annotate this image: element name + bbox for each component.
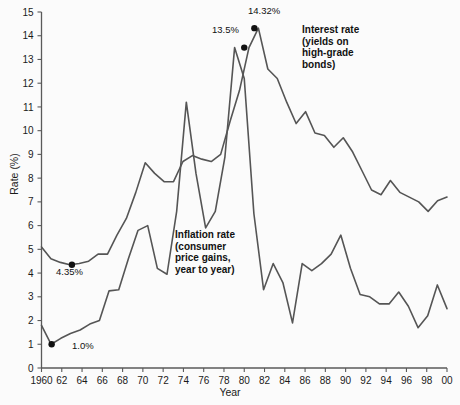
- y-tick-label: 0: [28, 363, 34, 374]
- y-tick-label: 13: [22, 54, 34, 65]
- annotation-dot: [241, 44, 247, 50]
- x-tick-label: 98: [421, 375, 433, 386]
- x-tick-label: 92: [360, 375, 372, 386]
- x-tick-label: 94: [381, 375, 393, 386]
- y-tick-label: 11: [23, 102, 34, 113]
- series-note-inflation-rate: Inflation rate (consumer price gains, ye…: [175, 229, 235, 275]
- x-tick-label: 68: [117, 375, 129, 386]
- series-note-interest-rate: Interest rate (yields on high-grade bond…: [302, 24, 359, 70]
- x-tick-label: 96: [401, 375, 413, 386]
- x-tick-label: 70: [137, 375, 149, 386]
- x-tick-label: 76: [198, 375, 210, 386]
- x-axis-label: Year: [0, 386, 460, 398]
- y-axis-label: Rate (%): [8, 144, 20, 204]
- y-tick-label: 1: [28, 339, 34, 350]
- annotation-label-interest-trough: 4.35%: [56, 266, 83, 277]
- y-axis-ticks: 0123456789101112131415: [22, 7, 41, 374]
- annotation-dot: [251, 25, 257, 31]
- y-tick-label: 10: [22, 125, 34, 136]
- x-tick-label: 66: [97, 375, 109, 386]
- x-tick-label: 88: [320, 375, 332, 386]
- annotation-label-interest-peak: 14.32%: [248, 5, 280, 16]
- x-tick-label: 80: [239, 375, 251, 386]
- x-tick-label: 78: [218, 375, 230, 386]
- annotation-label-inflation-peak: 13.5%: [212, 24, 239, 35]
- x-tick-label: 84: [279, 375, 291, 386]
- x-tick-label: 82: [259, 375, 271, 386]
- x-tick-label: 72: [158, 375, 170, 386]
- x-tick-label: 00: [441, 375, 453, 386]
- annotation-markers: [48, 25, 257, 348]
- annotation-label-inflation-trough: 1.0%: [72, 340, 94, 351]
- x-tick-label: 62: [56, 375, 68, 386]
- x-tick-label: 1960: [30, 375, 53, 386]
- y-tick-label: 12: [22, 78, 34, 89]
- series-line-interest-rate: [42, 28, 448, 265]
- y-tick-label: 5: [28, 244, 34, 255]
- chart-plot-area: 0123456789101112131415 19606264666870727…: [0, 0, 460, 405]
- x-tick-label: 90: [340, 375, 352, 386]
- y-tick-label: 3: [28, 291, 34, 302]
- series-line-inflation-rate: [42, 48, 448, 345]
- y-tick-label: 6: [28, 220, 34, 231]
- y-tick-label: 4: [28, 268, 34, 279]
- x-tick-label: 64: [76, 375, 88, 386]
- y-tick-label: 9: [28, 149, 34, 160]
- annotation-dot: [48, 341, 54, 347]
- x-tick-label: 86: [300, 375, 312, 386]
- y-tick-label: 7: [28, 196, 34, 207]
- chart-container: 0123456789101112131415 19606264666870727…: [0, 0, 460, 405]
- y-tick-label: 8: [28, 173, 34, 184]
- y-tick-label: 15: [22, 7, 34, 18]
- x-tick-label: 74: [178, 375, 190, 386]
- y-tick-label: 2: [28, 315, 34, 326]
- x-axis-ticks: 1960626466687072747678808284868890929496…: [30, 368, 453, 386]
- y-tick-label: 14: [22, 30, 34, 41]
